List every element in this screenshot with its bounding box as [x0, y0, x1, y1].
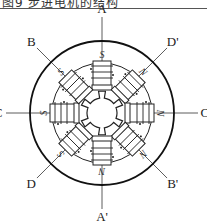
- phase-label: C': [200, 105, 207, 120]
- phase-label: A': [96, 209, 108, 224]
- stator-pole: [90, 61, 114, 90]
- pole-body: [128, 104, 154, 122]
- pole-body: [93, 61, 111, 87]
- coil-terminal: [81, 77, 84, 80]
- coil-terminal: [66, 131, 69, 134]
- polarity-label: S: [100, 49, 105, 60]
- coil-terminal: [77, 150, 80, 153]
- coil-terminal: [57, 123, 59, 125]
- pole-face: [74, 103, 79, 123]
- polarity-label: S: [38, 111, 49, 116]
- coil-terminal: [145, 101, 147, 103]
- coil-terminal: [62, 88, 65, 91]
- phase-label: A: [97, 1, 107, 16]
- coil-terminal: [90, 68, 92, 70]
- pole-body: [50, 104, 76, 122]
- coil-terminal: [120, 146, 123, 149]
- coil-terminal: [112, 156, 114, 158]
- stator-pole: [90, 136, 114, 165]
- coil-terminal: [139, 135, 142, 138]
- pole-face: [125, 103, 130, 123]
- phase-label: D: [27, 176, 36, 191]
- coil-terminal: [90, 150, 92, 152]
- rotor: [81, 91, 122, 134]
- phase-label: B': [167, 176, 178, 191]
- pole-face: [92, 85, 112, 90]
- pole-face: [92, 136, 112, 141]
- pole-body: [93, 139, 111, 165]
- stator-pole: [125, 101, 154, 125]
- phase-label: B: [27, 34, 36, 49]
- coil-terminal: [112, 74, 114, 76]
- coil-terminal: [139, 123, 141, 125]
- coil-terminal: [124, 73, 127, 76]
- stepper-motor-diagram: AD'C'B'A'DCBSNNNNSSS: [0, 0, 207, 224]
- phase-label: D': [167, 34, 179, 49]
- stator-pole: [50, 101, 79, 125]
- phase-label: C: [0, 105, 2, 120]
- coil-terminal: [135, 92, 138, 95]
- coil-terminal: [63, 101, 65, 103]
- polarity-label: N: [155, 109, 166, 118]
- polarity-label: N: [97, 166, 106, 177]
